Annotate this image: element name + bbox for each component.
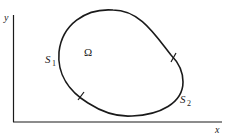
region-omega-label: Ω [84,46,92,58]
y-axis-label: y [3,12,9,23]
svg-text:2: 2 [187,99,191,108]
svg-text:S: S [45,53,51,65]
boundary-label-s1: S 1 [45,53,56,68]
region-boundary [59,10,183,116]
boundary-label-s2: S 2 [180,93,191,108]
x-axis-label: x [214,124,220,135]
svg-text:1: 1 [52,59,56,68]
svg-text:S: S [180,93,186,105]
diagram-canvas: y x Ω S 1 S 2 [0,0,226,135]
